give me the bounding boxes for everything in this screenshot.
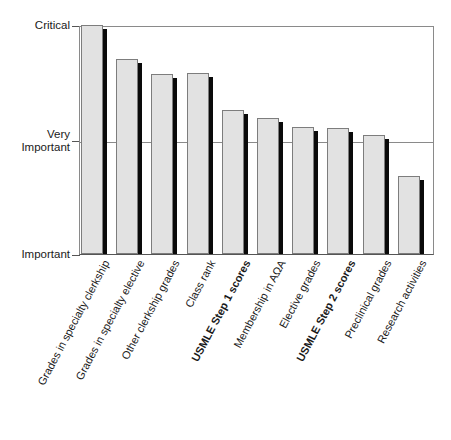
bar-body xyxy=(363,135,385,254)
plot-area xyxy=(79,26,434,255)
bar xyxy=(116,59,142,254)
bar-shadow xyxy=(103,29,107,254)
x-axis-labels: Grades in specialty clerkshipGrades in s… xyxy=(0,258,451,440)
bar-chart: Critical VeryImportant Important Grades … xyxy=(0,0,451,440)
bar xyxy=(187,73,213,254)
y-axis-tick-important xyxy=(72,255,80,256)
bar-shadow xyxy=(385,139,389,254)
bars-layer xyxy=(80,27,433,254)
bar-shadow xyxy=(138,63,142,254)
bar-shadow xyxy=(279,122,283,254)
y-axis-label-very-important-line1: Very xyxy=(47,128,70,140)
bar-shadow xyxy=(244,114,248,254)
bar-shadow xyxy=(420,180,424,254)
bar xyxy=(151,74,177,254)
bar xyxy=(81,25,107,254)
bar-body xyxy=(292,127,314,254)
bar-shadow xyxy=(173,78,177,254)
bar-body xyxy=(81,25,103,254)
y-axis-label-very-important-line2: Important xyxy=(21,141,70,153)
y-axis-label-critical: Critical xyxy=(0,19,70,32)
bar-shadow xyxy=(209,77,213,254)
bar xyxy=(327,128,353,254)
bar-body xyxy=(327,128,349,254)
bar xyxy=(292,127,318,254)
bar-body xyxy=(257,118,279,254)
bar-body xyxy=(187,73,209,254)
bar xyxy=(257,118,283,254)
bar-body xyxy=(151,74,173,254)
bar-body xyxy=(222,110,244,254)
bar-shadow xyxy=(314,131,318,254)
bar-body xyxy=(398,176,420,254)
bar xyxy=(398,176,424,254)
bar xyxy=(363,135,389,254)
x-axis-label: Grades in specialty elective xyxy=(73,258,146,382)
x-axis-label: Class rank xyxy=(182,258,217,310)
bar-shadow xyxy=(349,132,353,254)
bar xyxy=(222,110,248,254)
y-axis-label-very-important: VeryImportant xyxy=(0,128,70,153)
bar-body xyxy=(116,59,138,254)
